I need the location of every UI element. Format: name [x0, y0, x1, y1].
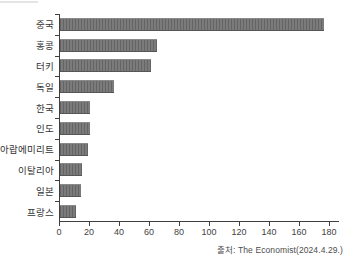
category-label: 터키 — [0, 56, 54, 77]
bar — [60, 101, 90, 114]
y-axis-tick — [55, 118, 59, 119]
x-axis-tick — [149, 222, 150, 226]
bar — [60, 184, 81, 197]
x-axis-tick — [269, 222, 270, 226]
x-tick-label: 160 — [291, 227, 306, 237]
bar — [60, 80, 114, 93]
x-tick-label: 120 — [231, 227, 246, 237]
y-axis-tick — [55, 76, 59, 77]
bar-row — [60, 201, 339, 222]
top-left-artifact — [0, 1, 38, 3]
x-axis-tick — [239, 222, 240, 226]
x-axis-tick — [59, 222, 60, 226]
y-axis-tick — [55, 35, 59, 36]
x-tick-label: 20 — [84, 227, 94, 237]
x-axis-tick — [329, 222, 330, 226]
source-caption: 출처: The Economist(2024.4.29.) — [217, 243, 343, 255]
y-axis-tick — [55, 201, 59, 202]
x-tick-label: 100 — [201, 227, 216, 237]
bar — [60, 205, 76, 218]
y-axis-tick — [55, 139, 59, 140]
bar — [60, 122, 90, 135]
x-tick-label: 40 — [114, 227, 124, 237]
y-axis-tick — [55, 56, 59, 57]
plot-area — [59, 14, 339, 222]
x-tick-label: 140 — [261, 227, 276, 237]
category-label: 아랍에미리트 — [0, 139, 54, 160]
category-label: 프랑스 — [0, 201, 54, 222]
category-label: 일본 — [0, 180, 54, 201]
x-tick-label: 60 — [144, 227, 154, 237]
category-labels: 중국홍콩터키독일한국인도아랍에미리트이탈리아일본프랑스 — [0, 14, 54, 222]
bar-row — [60, 180, 339, 201]
category-label: 홍콩 — [0, 35, 54, 56]
x-axis-tick — [89, 222, 90, 226]
bar-row — [60, 76, 339, 97]
x-tick-label: 0 — [56, 227, 61, 237]
y-axis-tick — [55, 180, 59, 181]
bar-row — [60, 97, 339, 118]
category-label: 중국 — [0, 14, 54, 35]
bar — [60, 59, 151, 72]
bar-chart-figure: 중국홍콩터키독일한국인도아랍에미리트이탈리아일본프랑스 020406080100… — [0, 0, 346, 262]
y-axis-tick — [55, 160, 59, 161]
x-axis-tick — [119, 222, 120, 226]
x-axis-tick — [299, 222, 300, 226]
category-label: 한국 — [0, 97, 54, 118]
bar-row — [60, 56, 339, 77]
x-axis-tick — [209, 222, 210, 226]
bar — [60, 39, 157, 52]
category-label: 인도 — [0, 118, 54, 139]
y-axis-tick — [55, 14, 59, 15]
bar-row — [60, 14, 339, 35]
x-tick-label: 80 — [174, 227, 184, 237]
x-axis-tick — [179, 222, 180, 226]
bar-row — [60, 35, 339, 56]
y-axis-tick — [55, 97, 59, 98]
bar-row — [60, 139, 339, 160]
bar — [60, 18, 324, 31]
category-label: 이탈리아 — [0, 160, 54, 181]
x-tick-label: 180 — [321, 227, 336, 237]
bar — [60, 163, 82, 176]
bar-row — [60, 160, 339, 181]
bar — [60, 143, 88, 156]
category-label: 독일 — [0, 76, 54, 97]
bar-row — [60, 118, 339, 139]
